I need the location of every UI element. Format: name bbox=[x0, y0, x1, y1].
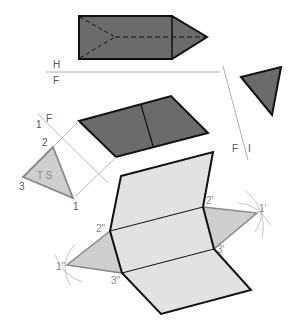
label-vertex-3: 3 bbox=[19, 181, 25, 192]
prism-development-diagram: H F F I 1 F 2 3 1 T S 2' 1' 3' 2" 1" 3" bbox=[0, 0, 292, 327]
label-f-top: F bbox=[53, 75, 59, 86]
label-2-prime: 2' bbox=[206, 195, 214, 206]
top-view-prism bbox=[79, 16, 207, 59]
label-1-double-prime: 1" bbox=[56, 261, 66, 272]
label-f-left: F bbox=[46, 113, 52, 124]
label-1-right: I bbox=[248, 143, 251, 154]
label-true-shape: T S bbox=[37, 170, 53, 181]
front-view-prism bbox=[79, 96, 208, 157]
label-2-double-prime: 2" bbox=[96, 223, 106, 234]
label-1-left: 1 bbox=[36, 119, 42, 130]
development-net bbox=[55, 152, 270, 314]
label-vertex-1: 1 bbox=[73, 201, 79, 212]
label-3-prime: 3' bbox=[217, 244, 225, 255]
label-1-prime: 1' bbox=[259, 203, 267, 214]
label-vertex-2: 2 bbox=[42, 137, 48, 148]
label-h: H bbox=[53, 59, 60, 70]
label-f-right: F bbox=[232, 143, 238, 154]
label-3-double-prime: 3" bbox=[111, 275, 121, 286]
end-view-triangle bbox=[241, 67, 281, 115]
